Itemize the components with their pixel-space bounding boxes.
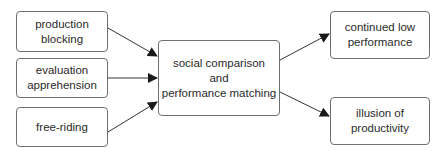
node-label-line: performance: [348, 35, 413, 50]
node-label-line: social comparison: [173, 56, 265, 71]
node-label-line: production: [35, 17, 89, 32]
edge-free-riding-to-center: [108, 102, 157, 132]
node-label-line: free-riding: [36, 120, 88, 135]
node-label-line: performance matching: [162, 86, 276, 101]
edge-center-to-illusion-of-productivity: [280, 92, 329, 116]
node-label-line: blocking: [41, 32, 83, 47]
node-label-line: productivity: [351, 121, 409, 136]
node-production-blocking: production blocking: [16, 11, 108, 52]
node-label-line: illusion of: [356, 106, 404, 121]
node-evaluation-apprehension: evaluation apprehension: [16, 58, 108, 98]
node-label-line: continued low: [345, 20, 415, 35]
node-label-line: and: [209, 71, 228, 86]
node-continued-low-performance: continued low performance: [330, 11, 430, 59]
node-social-comparison: social comparison and performance matchi…: [158, 40, 280, 116]
node-free-riding: free-riding: [16, 107, 108, 147]
edge-production-blocking-to-center: [108, 28, 157, 56]
node-label-line: apprehension: [27, 78, 97, 93]
node-illusion-of-productivity: illusion of productivity: [330, 97, 430, 145]
edge-center-to-continued-low-performance: [280, 34, 329, 60]
node-label-line: evaluation: [36, 63, 88, 78]
